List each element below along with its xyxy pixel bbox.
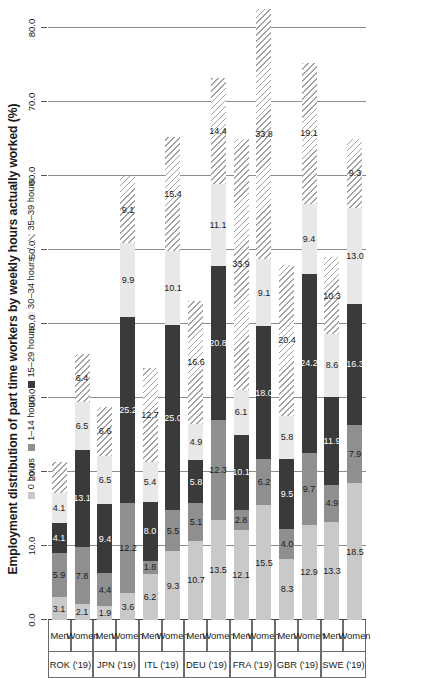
- bar-segment-1529hours: 9.4: [97, 504, 112, 574]
- bar-segment-3034hours: 11.1: [211, 184, 226, 266]
- bar-value-label: 16.3: [346, 360, 364, 369]
- tick-mark-10: [41, 545, 47, 546]
- bar-value-label: 24.2: [300, 359, 318, 368]
- bar-SWE-women[interactable]: 18.57.916.313.09.3: [347, 28, 362, 620]
- bar-JPN-men[interactable]: 1.94.49.46.56.6: [97, 28, 112, 620]
- country-group-DEU: DEU ('19): [184, 652, 229, 678]
- bar-value-label: 13.1: [73, 494, 91, 503]
- country-group-GBR: GBR ('19): [275, 652, 320, 678]
- axis-tick-label-30: 30.0: [26, 389, 37, 408]
- category-label-DEU-women: Women: [207, 620, 230, 652]
- bar-value-label: 6.5: [99, 475, 112, 484]
- legend-label-h35_39: 35–39 hours: [26, 179, 36, 231]
- country-group-FRA: FRA ('19): [230, 652, 275, 678]
- bar-ROK-women[interactable]: 2.17.813.16.56.4: [75, 28, 90, 620]
- legend-item-h35_39[interactable]: 35–39 hours: [26, 179, 36, 241]
- bar-segment-0hours: 18.5: [347, 483, 362, 620]
- tick-mark-40: [41, 323, 47, 324]
- bar-segment-0hours: 8.3: [279, 559, 294, 620]
- legend-swatch-h15_29: [28, 381, 35, 388]
- bar-value-label: 9.3: [348, 169, 361, 178]
- country-group-label: JPN ('19): [97, 659, 136, 670]
- bar-segment-0hours: 2.1: [75, 604, 90, 620]
- bar-segment-3539hours: 15.4: [165, 137, 180, 251]
- bar-segment-3034hours: 4.1: [52, 493, 67, 523]
- bar-GBR-men[interactable]: 8.34.09.55.820.4: [279, 28, 294, 620]
- country-group-label: FRA ('19): [233, 659, 272, 670]
- bar-segment-114hours: 4.0: [279, 529, 294, 559]
- bar-FRA-men[interactable]: 12.12.810.16.133.9: [234, 28, 249, 620]
- bar-value-label: 9.3: [167, 581, 180, 590]
- tick-mark-20: [41, 471, 47, 472]
- bar-value-label: 12.1: [232, 571, 250, 580]
- bar-value-label: 5.8: [280, 433, 293, 442]
- axis-tick-label-20: 20.0: [26, 463, 37, 482]
- bar-value-label: 12.2: [119, 544, 137, 553]
- category-label-text: Women: [339, 630, 371, 641]
- bar-value-label: 20.4: [278, 336, 296, 345]
- bar-GBR-women[interactable]: 12.99.724.29.419.1: [302, 28, 317, 620]
- bar-value-label: 3.1: [53, 604, 66, 613]
- axis-tick-label-50: 50.0: [26, 241, 37, 260]
- bar-ITL-men[interactable]: 6.21.88.05.412.7: [143, 28, 158, 620]
- bar-segment-1529hours: 25.0: [165, 325, 180, 510]
- axis-tick-label-0: 0.0: [26, 613, 37, 626]
- bar-value-label: 8.3: [280, 585, 293, 594]
- bar-value-label: 19.1: [300, 129, 318, 138]
- bar-value-label: 13.5: [210, 566, 228, 575]
- bar-value-label: 11.9: [323, 437, 340, 446]
- bar-value-label: 5.9: [53, 571, 66, 580]
- bar-value-label: 20.8: [210, 339, 228, 348]
- bar-value-label: 9.1: [121, 205, 134, 214]
- bar-segment-114hours: 9.7: [302, 453, 317, 525]
- bar-segment-1529hours: 8.0: [143, 502, 158, 561]
- bar-JPN-women[interactable]: 3.612.225.29.99.1: [120, 28, 135, 620]
- bar-value-label: 2.8: [235, 516, 248, 525]
- bar-FRA-women[interactable]: 15.56.218.09.133.8: [256, 28, 271, 620]
- legend-item-h30_34[interactable]: 30–34 hours: [26, 257, 36, 319]
- bar-value-label: 12.7: [141, 410, 159, 419]
- bar-segment-1529hours: 16.3: [347, 304, 362, 425]
- bar-segment-0hours: 1.9: [97, 606, 112, 620]
- bar-segment-3034hours: 10.1: [165, 251, 180, 326]
- bar-segment-0hours: 12.9: [302, 525, 317, 620]
- legend-item-h15_29[interactable]: 15–29 hours: [26, 326, 36, 388]
- bar-ITL-women[interactable]: 9.35.525.010.115.4: [165, 28, 180, 620]
- bar-value-label: 6.2: [258, 478, 271, 487]
- category-label-JPN-women: Women: [116, 620, 139, 652]
- bar-segment-3539hours: 10.3: [324, 257, 339, 333]
- bar-value-label: 15.4: [164, 189, 182, 198]
- bar-ROK-men[interactable]: 3.15.94.14.1: [52, 28, 67, 620]
- bar-segment-1529hours: 10.1: [234, 435, 249, 510]
- tick-mark-80: [41, 27, 47, 28]
- bar-segment-3539hours: [52, 462, 67, 492]
- bar-value-label: 4.9: [326, 499, 339, 508]
- tick-mark-0: [41, 619, 47, 620]
- legend-swatch-h35_39: [28, 234, 35, 241]
- country-group-label: SWE ('19): [322, 659, 364, 670]
- bar-value-label: 5.8: [189, 477, 202, 486]
- legend-swatch-h0: [28, 492, 35, 499]
- chart-figure-rotated: Employment distribution of part time wor…: [0, 0, 421, 678]
- country-group-SWE: SWE ('19): [321, 652, 366, 678]
- bar-value-label: 33.9: [232, 260, 250, 269]
- bar-value-label: 1.9: [99, 608, 112, 617]
- bar-segment-3539hours: 33.9: [234, 139, 249, 390]
- bar-SWE-men[interactable]: 13.34.911.98.610.3: [324, 28, 339, 620]
- bar-segment-3539hours: 6.6: [97, 407, 112, 456]
- bar-segment-0hours: 13.3: [324, 522, 339, 620]
- bar-value-label: 12.3: [210, 466, 228, 475]
- country-group-label: GBR ('19): [277, 659, 318, 670]
- axis-tick-label-40: 40.0: [26, 315, 37, 334]
- bar-value-label: 9.4: [303, 234, 316, 243]
- bar-value-label: 18.5: [346, 547, 364, 556]
- bar-DEU-men[interactable]: 10.75.15.84.916.6: [188, 28, 203, 620]
- bar-segment-3539hours: 9.1: [120, 176, 135, 243]
- bar-value-label: 3.6: [121, 602, 134, 611]
- bar-value-label: 14.4: [210, 126, 228, 135]
- bar-segment-0hours: 15.5: [256, 505, 271, 620]
- bar-segment-114hours: 5.9: [52, 553, 67, 597]
- bar-value-label: 6.4: [76, 374, 89, 383]
- bar-DEU-women[interactable]: 13.512.320.811.114.4: [211, 28, 226, 620]
- bar-segment-114hours: 2.8: [234, 510, 249, 531]
